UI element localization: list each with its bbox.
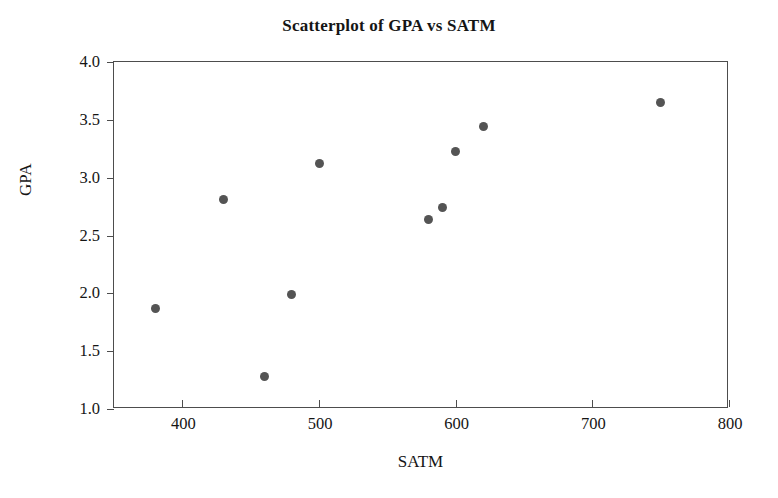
y-axis-title: GPA — [16, 164, 36, 196]
y-axis-tick: 1.0 — [107, 409, 114, 410]
data-point — [438, 203, 447, 212]
data-point — [451, 147, 460, 156]
y-axis-tick: 2.5 — [107, 236, 114, 237]
x-axis-title: SATM — [113, 452, 728, 472]
plot-area: 1.01.52.02.53.03.54.0 400500600700800 — [113, 61, 728, 408]
y-axis-tick-label: 1.5 — [79, 341, 100, 361]
y-axis-tick-label: 3.5 — [79, 110, 100, 130]
y-axis-tick-label: 4.0 — [79, 52, 100, 72]
data-point — [151, 304, 160, 313]
x-axis-tick-label: 500 — [308, 414, 333, 434]
data-point — [479, 122, 488, 131]
y-axis-tick: 3.5 — [107, 120, 114, 121]
y-axis-tick-label: 2.5 — [79, 226, 100, 246]
x-axis-tick-label: 400 — [171, 414, 196, 434]
y-axis-tick: 3.0 — [107, 178, 114, 179]
y-axis-tick: 2.0 — [107, 293, 114, 294]
chart-title: Scatterplot of GPA vs SATM — [0, 16, 778, 36]
x-axis-tick-label: 800 — [718, 414, 743, 434]
y-axis-tick: 1.5 — [107, 351, 114, 352]
data-point — [656, 98, 665, 107]
data-point — [424, 215, 433, 224]
data-point — [219, 195, 228, 204]
data-point — [260, 372, 269, 381]
y-axis-tick-label: 3.0 — [79, 168, 100, 188]
x-axis-tick-label: 600 — [444, 414, 469, 434]
data-points-layer — [114, 62, 727, 407]
x-axis-tick-label: 700 — [581, 414, 606, 434]
x-axis-tick: 800 — [729, 400, 730, 407]
y-axis-tick-label: 2.0 — [79, 283, 100, 303]
data-point — [287, 290, 296, 299]
data-point — [315, 159, 324, 168]
y-axis-tick: 4.0 — [107, 62, 114, 63]
scatterplot-figure: Scatterplot of GPA vs SATM 1.01.52.02.53… — [0, 0, 778, 498]
y-axis-tick-label: 1.0 — [79, 399, 100, 419]
